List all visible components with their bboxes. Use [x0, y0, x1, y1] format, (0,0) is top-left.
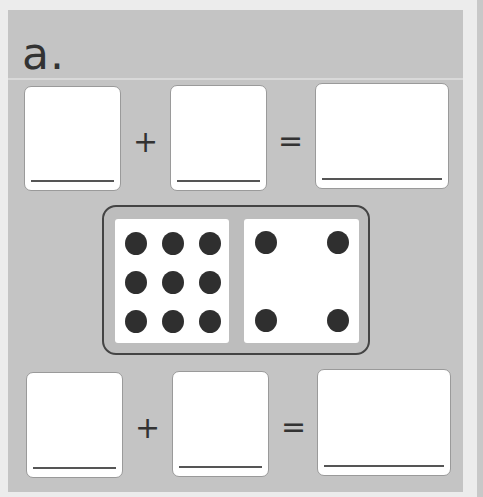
pip-icon [162, 310, 184, 333]
domino-left-half-9-pips [115, 219, 229, 343]
answer-line [179, 466, 262, 468]
pip-icon [125, 232, 147, 255]
bottom-sum-box[interactable] [317, 369, 451, 476]
equals-sign: = [281, 412, 306, 442]
pip-icon [327, 231, 349, 254]
pip-icon [199, 271, 221, 294]
adjacent-panel-edge [477, 0, 483, 497]
top-addend2-box[interactable] [170, 85, 267, 191]
top-sum-box[interactable] [315, 83, 449, 189]
pip-icon [162, 232, 184, 255]
pip-icon [199, 310, 221, 333]
divider [8, 78, 463, 80]
domino-right-half-4-pips [244, 219, 359, 343]
bottom-addend1-box[interactable] [26, 372, 123, 478]
answer-line [177, 180, 260, 182]
answer-line [31, 180, 114, 182]
plus-sign: + [135, 413, 160, 443]
answer-line [322, 178, 442, 180]
pip-icon [125, 310, 147, 333]
pip-icon [327, 309, 349, 332]
bottom-addend2-box[interactable] [172, 371, 269, 477]
pip-icon [255, 309, 277, 332]
exercise-label: a. [22, 32, 65, 76]
pip-icon [255, 231, 277, 254]
domino [102, 205, 370, 355]
equals-sign: = [278, 126, 303, 156]
pip-icon [125, 271, 147, 294]
answer-line [324, 465, 444, 467]
plus-sign: + [133, 127, 158, 157]
top-addend1-box[interactable] [24, 86, 121, 191]
pip-icon [199, 232, 221, 255]
pip-icon [162, 271, 184, 294]
answer-line [33, 467, 116, 469]
